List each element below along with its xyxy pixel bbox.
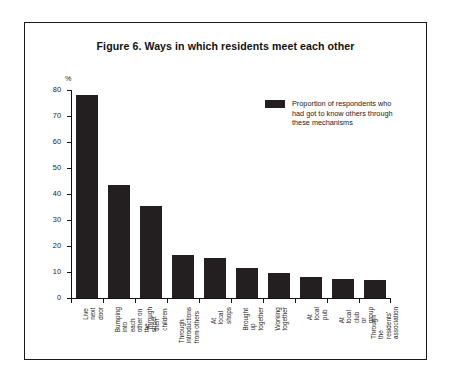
x-axis-tick <box>390 299 391 303</box>
y-axis-tick: 60 <box>67 142 71 143</box>
x-axis-category-label: At local pub <box>306 307 328 320</box>
y-axis-tick: 20 <box>67 246 71 247</box>
bar <box>364 280 386 298</box>
y-axis-tick-label: 40 <box>53 189 61 198</box>
figure-frame: Figure 6. Ways in which residents meet e… <box>24 22 427 360</box>
bar <box>332 279 354 299</box>
x-axis-tick <box>231 299 232 303</box>
y-axis-line <box>71 90 72 299</box>
x-axis-category-label: At local shops <box>210 307 232 324</box>
x-axis-tick <box>295 299 296 303</box>
figure-title: Figure 6. Ways in which residents meet e… <box>25 40 426 52</box>
x-axis-tick <box>135 299 136 303</box>
y-axis-tick: 30 <box>67 220 71 221</box>
plot-area: 01020304050607080 Live next doorBumping … <box>71 90 391 299</box>
y-axis-tick-label: 0 <box>57 293 61 302</box>
y-axis-tick-label: 70 <box>53 111 61 120</box>
y-axis-tick: 10 <box>67 272 71 273</box>
x-axis-category-label: Brought up together <box>242 307 264 330</box>
x-axis-category-label: Through their children <box>146 307 168 331</box>
y-axis-tick-label: 30 <box>53 215 61 224</box>
x-axis-tick <box>263 299 264 303</box>
y-axis-tick-label: 80 <box>53 85 61 94</box>
y-axis-tick: 40 <box>67 194 71 195</box>
y-axis-tick-label: 50 <box>53 163 61 172</box>
y-axis-tick: 70 <box>67 116 71 117</box>
bar <box>108 185 130 298</box>
y-axis-tick-label: 60 <box>53 137 61 146</box>
x-axis-tick <box>103 299 104 303</box>
x-axis-tick <box>71 299 72 303</box>
bar <box>172 255 194 298</box>
x-axis-category-label: Through the residents' association <box>370 307 399 339</box>
x-axis-tick <box>199 299 200 303</box>
bar <box>204 258 226 298</box>
y-axis-tick: 80 <box>67 90 71 91</box>
x-axis-category-label: Live next door <box>82 307 104 320</box>
x-axis-tick <box>359 299 360 303</box>
y-axis-tick-label: 10 <box>53 267 61 276</box>
y-axis-tick-label: 20 <box>53 241 61 250</box>
x-axis-category-label: Working together <box>274 307 289 330</box>
bar <box>76 95 98 298</box>
bar <box>300 277 322 298</box>
x-axis-tick <box>327 299 328 303</box>
y-axis-unit-label: % <box>65 74 71 83</box>
x-axis-category-label: At local club or group <box>338 307 374 323</box>
x-axis-category-label: Through introductions from others <box>178 307 200 343</box>
x-axis-tick <box>167 299 168 303</box>
y-axis-tick: 50 <box>67 168 71 169</box>
bar <box>236 268 258 298</box>
bar <box>140 206 162 298</box>
bar <box>268 273 290 298</box>
